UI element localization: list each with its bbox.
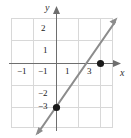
point-x-intercept	[97, 60, 104, 67]
point-y-intercept	[53, 104, 60, 111]
y-axis-arrow-icon	[53, 6, 60, 14]
y-tick-label-1: 1	[43, 46, 48, 55]
x-axis-label: x	[120, 68, 124, 78]
x-tick-label-1: 1	[65, 67, 70, 76]
y-tick-label-2: 2	[41, 24, 46, 33]
plotted-line	[36, 18, 118, 136]
y-tick-label-neg3: −3	[38, 102, 48, 111]
x-tick-label-neg1: −1	[17, 67, 27, 76]
y-tick-label-neg1: −1	[38, 67, 48, 76]
x-axis-arrow-icon	[113, 60, 121, 67]
y-axis-label: y	[45, 3, 49, 13]
x-tick-label-3: 3	[87, 67, 92, 76]
graph-figure: y x 2 1 −1 −2 −3 −1 1 3	[0, 0, 131, 138]
y-tick-label-neg2: −2	[38, 89, 48, 98]
y-axis	[53, 6, 60, 131]
